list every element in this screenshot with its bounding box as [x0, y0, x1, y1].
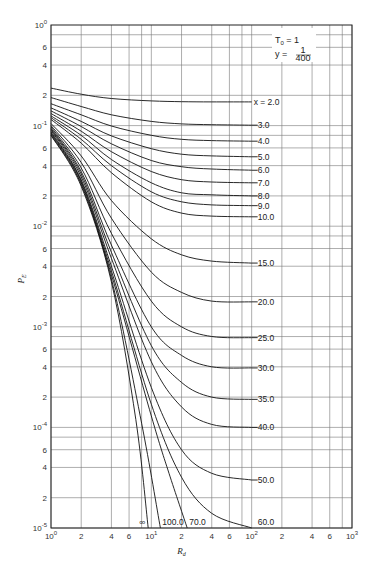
curve-label: 6.0	[258, 165, 270, 175]
y-tick-label: 10-4	[33, 421, 48, 432]
x-tick-label: 2	[79, 532, 84, 541]
y-axis-ticks: 10064210-164210-264210-364210-464210-5	[33, 19, 48, 533]
curve-label: 100.0	[162, 517, 184, 527]
x-tick-label: 6	[127, 532, 132, 541]
curve-label: 25.0	[258, 333, 275, 343]
y-tick-label: 4	[43, 262, 48, 271]
curve-label: 10.0	[258, 212, 275, 222]
curve-label: x = 2.0	[254, 97, 280, 107]
curve-label: 7.0	[258, 178, 270, 188]
y-axis-label: PE	[16, 274, 27, 285]
y-tick-label: 10-1	[33, 120, 48, 131]
x-axis-ticks: 100246101246102246103	[45, 530, 359, 541]
plot-frame	[51, 25, 352, 528]
y-tick-label: 6	[43, 345, 48, 354]
curve-label: 15.0	[258, 258, 275, 268]
y-tick-label: 6	[43, 245, 48, 254]
curve-label: 5.0	[258, 152, 270, 162]
y-tick-label: 2	[43, 91, 48, 100]
y-tick-label: 6	[43, 43, 48, 52]
curve-label: 50.0	[258, 475, 275, 485]
curve-label: 60.0	[258, 517, 275, 527]
grid-lines	[51, 25, 352, 528]
svg-text:y =: y =	[275, 49, 287, 59]
curve-label: 35.0	[258, 394, 275, 404]
curve-label: 20.0	[258, 297, 275, 307]
y-tick-label: 4	[43, 363, 48, 372]
y-tick-label: 100	[35, 19, 48, 30]
svg-text:400: 400	[295, 53, 310, 63]
curve-label: 8.0	[258, 191, 270, 201]
y-tick-label: 4	[43, 61, 48, 70]
y-tick-label: 4	[43, 463, 48, 472]
x-tick-label: 102	[246, 530, 259, 541]
x-tick-label: 2	[280, 532, 285, 541]
curve-label: 9.0	[258, 201, 270, 211]
curve-label: ∞	[139, 517, 145, 527]
x-axis-label: Rd	[176, 546, 187, 557]
curve-x=70.0	[51, 134, 187, 528]
x-tick-label: 100	[45, 530, 58, 541]
curve-x=inf	[51, 135, 148, 528]
chart: 100246101246102246103 10064210-164210-26…	[0, 0, 379, 567]
y-tick-label: 2	[43, 494, 48, 503]
curve-label: 3.0	[258, 120, 270, 130]
x-tick-label: 4	[310, 532, 315, 541]
x-tick-label: 103	[346, 530, 359, 541]
curve-label: 70.0	[189, 517, 206, 527]
y-tick-label: 6	[43, 144, 48, 153]
parameter-annotation: T0 = 1y = 1400	[272, 28, 316, 63]
x-tick-label: 4	[109, 532, 114, 541]
y-tick-label: 10-3	[33, 321, 48, 332]
svg-text:T0 = 1: T0 = 1	[275, 35, 299, 46]
y-tick-label: 6	[43, 446, 48, 455]
y-tick-label: 2	[43, 192, 48, 201]
x-tick-label: 6	[328, 532, 333, 541]
y-tick-label: 4	[43, 162, 48, 171]
curve-label: 4.0	[258, 136, 270, 146]
y-tick-label: 2	[43, 393, 48, 402]
x-tick-label: 101	[145, 530, 158, 541]
x-tick-label: 2	[179, 532, 184, 541]
curve-label: 40.0	[258, 422, 275, 432]
y-tick-label: 2	[43, 293, 48, 302]
curve-label: 30.0	[258, 363, 275, 373]
x-tick-label: 6	[227, 532, 232, 541]
y-tick-label: 10-2	[33, 220, 48, 231]
x-tick-label: 4	[210, 532, 215, 541]
